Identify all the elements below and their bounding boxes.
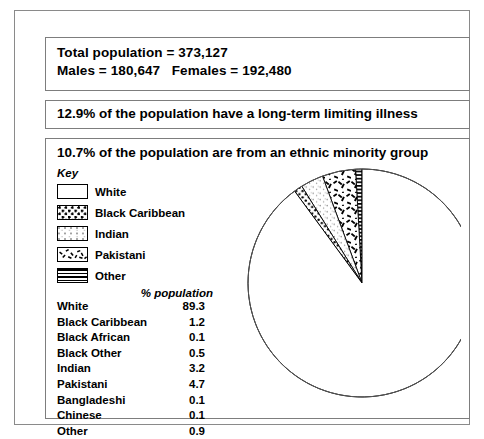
table-category: Black Caribbean — [57, 316, 173, 328]
ethnic-minority-panel: 10.7% of the population are from an ethn… — [45, 138, 470, 419]
table-row: Black African 0.1 — [57, 331, 237, 347]
table-row: Chinese 0.1 — [57, 409, 237, 425]
key-label-black-caribbean: Black Caribbean — [95, 207, 185, 219]
table-category: Indian — [57, 362, 173, 374]
table-value: 89.3 — [173, 300, 205, 312]
key-item-indian: Indian — [57, 224, 185, 243]
percentage-table: % population White 89.3 Black Caribbean … — [57, 287, 237, 439]
swatch-pakistani-icon — [57, 247, 88, 262]
table-row: Black Caribbean 1.2 — [57, 316, 237, 332]
key-item-pakistani: Pakistani — [57, 245, 185, 264]
table-value: 0.1 — [173, 394, 205, 406]
total-population-text: Total population = 373,127 — [57, 45, 228, 60]
swatch-other-icon — [57, 268, 88, 283]
ethnic-composition-pie-chart — [221, 167, 461, 409]
table-column-header: % population — [57, 287, 237, 299]
illness-panel: 12.9% of the population have a long-term… — [45, 100, 470, 129]
key-item-other: Other — [57, 266, 185, 285]
swatch-indian-icon — [57, 226, 88, 241]
chart-key: Key White Black Caribbean Indian — [57, 167, 185, 287]
males-females-text: Males = 180,647 Females = 192,480 — [57, 63, 292, 78]
key-label-other: Other — [95, 270, 126, 282]
table-row: Indian 3.2 — [57, 362, 237, 378]
table-row: Other 0.9 — [57, 425, 237, 439]
long-term-illness-text: 12.9% of the population have a long-term… — [57, 106, 418, 121]
table-category: Pakistani — [57, 378, 173, 390]
table-value: 4.7 — [173, 378, 205, 390]
table-row: Pakistani 4.7 — [57, 378, 237, 394]
table-row: White 89.3 — [57, 300, 237, 316]
swatch-white-icon — [57, 184, 88, 199]
population-panel: Total population = 373,127 Males = 180,6… — [45, 37, 470, 91]
key-item-black-caribbean: Black Caribbean — [57, 203, 185, 222]
key-label-white: White — [95, 186, 126, 198]
outer-frame: Total population = 373,127 Males = 180,6… — [14, 10, 470, 425]
table-category: Black Other — [57, 347, 173, 359]
key-item-white: White — [57, 182, 185, 201]
table-category: White — [57, 300, 173, 312]
table-category: Chinese — [57, 409, 173, 421]
table-value: 3.2 — [173, 362, 205, 374]
key-label-pakistani: Pakistani — [95, 249, 146, 261]
table-category: Black African — [57, 331, 173, 343]
table-row: Black Other 0.5 — [57, 347, 237, 363]
table-value: 0.5 — [173, 347, 205, 359]
table-category: Other — [57, 425, 173, 437]
table-value: 0.1 — [173, 409, 205, 421]
key-title: Key — [57, 167, 185, 179]
table-value: 1.2 — [173, 316, 205, 328]
table-value: 0.1 — [173, 331, 205, 343]
table-row: Bangladeshi 0.1 — [57, 394, 237, 410]
table-value: 0.9 — [173, 425, 205, 437]
key-label-indian: Indian — [95, 228, 129, 240]
table-category: Bangladeshi — [57, 394, 173, 406]
ethnic-minority-heading: 10.7% of the population are from an ethn… — [57, 145, 428, 160]
swatch-black-caribbean-icon — [57, 205, 88, 220]
